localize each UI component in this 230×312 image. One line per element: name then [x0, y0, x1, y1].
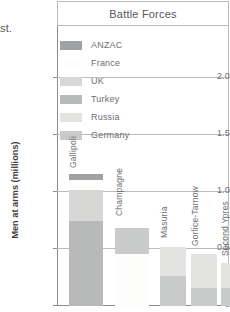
bar-label: Second Ypres: [220, 201, 230, 256]
bar-group-masuria[interactable]: Masuria: [160, 26, 186, 306]
bar-segment-germany: [160, 276, 186, 306]
y-tick-mark-2.0: [53, 77, 57, 78]
bar-group-gorlice-tarnow[interactable]: Gorlice-Tarnow: [191, 26, 217, 306]
y-axis-title: Men at arms (millions): [10, 125, 20, 255]
y-axis-line: [57, 26, 58, 306]
page-title: Battle Forces: [109, 8, 176, 20]
bar-segment-france: [69, 180, 103, 190]
bar-label: Gallipoli: [68, 136, 78, 168]
bar-segment-russia: [160, 247, 186, 276]
bar-group-second-ypres[interactable]: Second Ypres: [221, 26, 230, 306]
bar-segment-turkey: [69, 221, 103, 306]
bar-label: Masuria: [159, 206, 169, 238]
bar-label: Gorlice-Tarnow: [190, 186, 200, 246]
bar-stack: [69, 174, 103, 306]
clipped-left-text: st.: [0, 22, 12, 34]
bar-segment-germany: [115, 228, 149, 254]
bar-group-gallipoli[interactable]: Gallipoli: [69, 26, 103, 306]
bar-stack: [115, 228, 149, 306]
y-tick-mark-0: [53, 305, 57, 306]
bar-group-champagne[interactable]: Champagne: [115, 26, 149, 306]
y-tick-mark-1.0: [53, 191, 57, 192]
chart-title-box: Battle Forces: [57, 1, 229, 26]
bar-segment-germany: [191, 288, 217, 306]
bar-stack: [160, 247, 186, 306]
bar-segment-france: [115, 254, 149, 306]
bar-segment-uk: [69, 190, 103, 221]
bar-segment-germany: [221, 288, 230, 306]
bar-stack: [221, 263, 230, 306]
bar-segment-russia: [191, 254, 217, 288]
y-tick-mark-0.5: [53, 248, 57, 249]
bar-segment-russia: [221, 263, 230, 288]
bar-stack: [191, 254, 217, 306]
bar-label: Champagne: [114, 168, 124, 216]
y-tick-mark-1.5: [53, 134, 57, 135]
